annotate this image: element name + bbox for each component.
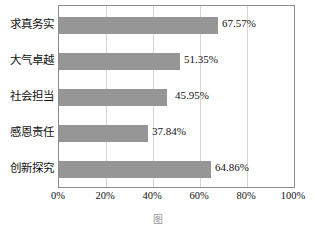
- bar-value-2: 45.95%: [175, 89, 209, 101]
- figure-caption: 图: [0, 214, 315, 226]
- category-label-4: 创新探究: [0, 162, 54, 174]
- x-tick-60: 60%: [189, 189, 208, 203]
- x-tick-20: 20%: [95, 189, 114, 203]
- x-tick-80: 80%: [236, 189, 255, 203]
- category-label-3: 感恩责任: [0, 126, 54, 138]
- x-axis-labels: 0% 20% 40% 60% 80% 100%: [0, 189, 315, 205]
- bar-4: [59, 161, 211, 178]
- gridline-80: [247, 6, 248, 187]
- category-label-1: 大气卓越: [0, 54, 54, 66]
- plot-area: 67.57% 51.35% 45.95% 37.84% 64.86%: [58, 5, 295, 188]
- bar-value-0: 67.57%: [222, 17, 256, 29]
- category-label-2: 社会担当: [0, 90, 54, 102]
- bar-1: [59, 53, 180, 70]
- bar-value-1: 51.35%: [184, 53, 218, 65]
- bar-0: [59, 17, 218, 34]
- x-tick-100: 100%: [281, 189, 306, 203]
- category-axis-labels: 求真务实 大气卓越 社会担当 感恩责任 创新探究: [0, 5, 57, 186]
- x-tick-40: 40%: [142, 189, 161, 203]
- x-tick-0: 0%: [51, 189, 65, 203]
- bar-value-4: 64.86%: [215, 161, 249, 173]
- bar-value-3: 37.84%: [152, 125, 186, 137]
- bar-2: [59, 89, 167, 106]
- category-label-0: 求真务实: [0, 18, 54, 30]
- bar-3: [59, 125, 148, 142]
- bar-chart: 求真务实 大气卓越 社会担当 感恩责任 创新探究 67.57% 51.35% 4…: [0, 0, 315, 226]
